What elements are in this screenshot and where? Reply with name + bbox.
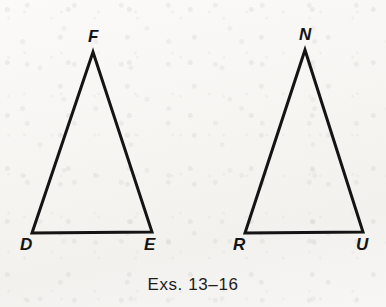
geometry-figure: D E F R U N Exs. 13–16 (0, 0, 386, 307)
triangles-diagram (0, 0, 386, 307)
vertex-label-u: U (356, 236, 368, 253)
vertex-label-r: R (233, 236, 245, 253)
vertex-label-n: N (299, 26, 311, 43)
vertex-label-d: D (20, 236, 32, 253)
vertex-label-e: E (144, 236, 155, 253)
vertex-label-f: F (88, 28, 98, 45)
triangle-rnu-outline (245, 50, 363, 233)
triangle-def-outline (32, 52, 152, 233)
figure-caption: Exs. 13–16 (0, 275, 386, 295)
